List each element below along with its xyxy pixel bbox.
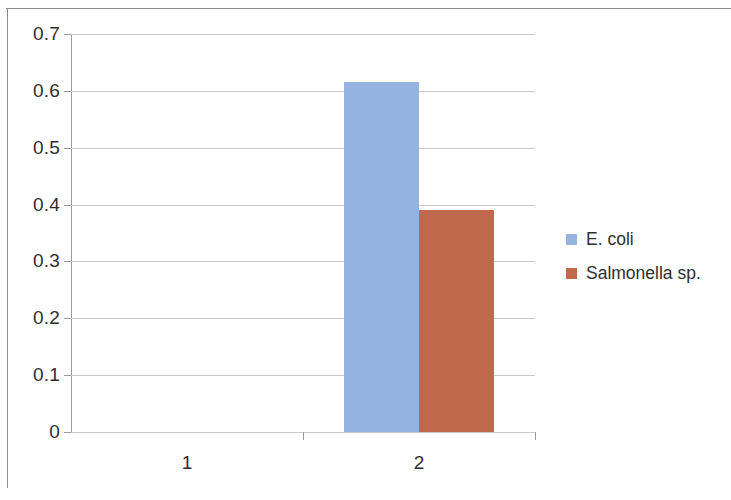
plot-area	[71, 34, 535, 432]
x-axis-tick-label: 2	[389, 452, 449, 474]
chart-legend: E. coliSalmonella sp.	[566, 222, 726, 290]
bar	[344, 82, 419, 432]
y-axis-tick-mark	[64, 148, 71, 149]
x-axis-tick-label: 1	[157, 452, 217, 474]
legend-label: Salmonella sp.	[586, 263, 701, 283]
y-axis-tick-mark	[64, 34, 71, 35]
y-axis-tick-label: 0.1	[8, 365, 60, 384]
legend-item: Salmonella sp.	[566, 256, 726, 290]
gridline	[71, 34, 535, 35]
y-axis-tick-mark	[64, 432, 71, 433]
y-axis-tick-label: 0.7	[8, 24, 60, 43]
bar	[419, 210, 494, 432]
legend-label: E. coli	[586, 229, 634, 249]
x-axis-tick-mark	[303, 432, 304, 440]
bar-chart: 0.70.60.50.40.30.20.10 12 E. coliSalmone…	[0, 0, 731, 500]
y-axis-tick-mark	[64, 261, 71, 262]
y-axis-tick-mark	[64, 91, 71, 92]
y-axis-tick-mark	[64, 318, 71, 319]
legend-item: E. coli	[566, 222, 726, 256]
y-axis-tick-label: 0.3	[8, 251, 60, 270]
y-axis-tick-labels: 0.70.60.50.40.30.20.10	[0, 0, 60, 500]
y-axis-tick-label: 0	[8, 422, 60, 441]
gridline	[71, 91, 535, 92]
gridline	[71, 148, 535, 149]
y-axis-tick-label: 0.4	[8, 195, 60, 214]
y-axis-tick-mark	[64, 205, 71, 206]
y-axis-tick-label: 0.6	[8, 81, 60, 100]
legend-color-swatch	[566, 234, 577, 245]
legend-color-swatch	[566, 268, 577, 279]
x-axis-end-tick-mark	[535, 432, 536, 440]
gridline	[71, 205, 535, 206]
y-axis-tick-label: 0.2	[8, 308, 60, 327]
y-axis-tick-mark	[64, 375, 71, 376]
y-axis-tick-label: 0.5	[8, 138, 60, 157]
